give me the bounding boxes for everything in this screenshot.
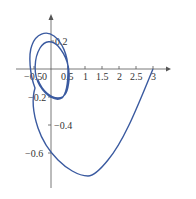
x-axis-arrow-icon <box>166 67 171 72</box>
y-tick-label: −0.2 <box>28 92 46 103</box>
x-tick-label: 2.5 <box>130 71 143 82</box>
x-tick-label: 1 <box>83 71 88 82</box>
chart: −0.5 0 0.5 1 1.5 2 2.5 3 0.2 −0.2 −0.4 −… <box>0 0 196 199</box>
y-tick-label: −0.6 <box>25 148 43 159</box>
x-tick-label: 0 <box>42 71 47 82</box>
x-ticks <box>34 66 153 69</box>
y-tick-label: −0.4 <box>54 120 72 131</box>
curve-series <box>30 33 153 176</box>
x-tick-label: 2 <box>117 71 122 82</box>
x-tick-label: 1.5 <box>96 71 109 82</box>
y-axis-arrow-icon <box>49 14 54 20</box>
